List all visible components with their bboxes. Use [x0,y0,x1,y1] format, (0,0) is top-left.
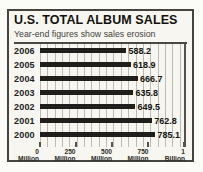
bar [40,62,131,67]
year-label: 2002 [14,102,40,112]
bar-row: 2004 666.7 [14,72,187,86]
chart-panel: U.S. TOTAL ALBUM SALES Year-end figures … [7,9,194,162]
bar [40,132,155,137]
value-label: 588.2 [128,46,151,56]
bar-track: 635.8 [40,86,187,100]
x-tick-mark [147,142,149,147]
bar-row: 2006 588.2 [14,44,187,58]
bar-track: 618.9 [40,58,187,72]
year-label: 2003 [14,88,40,98]
x-tick-number: 1 [165,148,185,156]
x-tick-number: 500 [91,148,112,156]
value-label: 635.8 [135,88,158,98]
bar [40,90,133,95]
chart-subtitle: Year-end figures show sales erosion [14,29,187,39]
bar-track: 666.7 [40,72,187,86]
chart-title: U.S. TOTAL ALBUM SALES [14,14,187,28]
x-tick-label: 1 Billion [165,148,186,163]
bar-row: 2002 649.5 [14,100,187,114]
x-tick-mark [111,142,113,147]
x-tick-unit: Million [55,155,76,163]
year-label: 2000 [14,130,40,140]
bar-track: 649.5 [40,100,187,114]
x-tick-number: 250 [55,148,76,156]
value-label: 785.1 [157,130,180,140]
bar-row: 2005 618.9 [14,58,187,72]
bar [40,104,135,109]
year-label: 2004 [14,74,40,84]
bar-track: 588.2 [40,44,187,58]
year-label: 2006 [14,46,40,56]
x-tick-label: 750 Million [128,148,150,163]
bar-row: 2003 635.8 [14,86,187,100]
x-tick-mark [183,142,185,147]
bar [40,48,126,53]
x-tick-unit: Billion [165,155,185,163]
x-axis: 0 Million 250 Million 500 Million 750 Mi… [40,148,186,166]
bar [40,76,138,81]
x-tick-number: 750 [128,148,149,156]
x-tick-unit: Million [18,155,39,163]
bar-row: 2000 785.1 [14,128,187,142]
bar-chart: 2006 588.2 2005 618.9 2004 666.7 [14,42,187,166]
bar-row: 2001 762.8 [14,114,187,128]
bar-track: 762.8 [40,114,187,128]
value-label: 649.5 [137,102,160,112]
x-tick-label: 0 Million [18,148,40,163]
x-tick-label: 500 Million [91,148,113,163]
x-tick-mark [39,142,41,147]
bar [40,118,152,123]
x-tick-label: 250 Million [55,148,77,163]
year-label: 2001 [14,116,40,126]
x-tick-mark [75,142,77,147]
value-label: 762.8 [154,116,177,126]
bar-rows: 2006 588.2 2005 618.9 2004 666.7 [14,44,187,142]
x-tick-unit: Million [128,155,149,163]
bar-track: 785.1 [40,128,187,142]
value-label: 666.7 [140,74,163,84]
year-label: 2005 [14,60,40,70]
x-tick-unit: Million [91,155,112,163]
x-tick-number: 0 [18,148,39,156]
value-label: 618.9 [133,60,156,70]
